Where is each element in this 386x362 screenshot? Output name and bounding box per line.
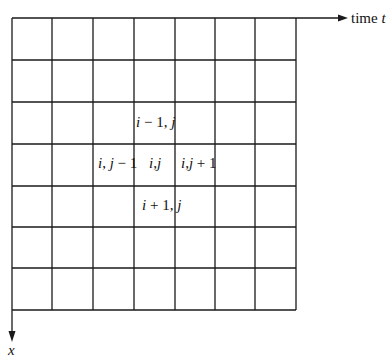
label-i-plus-1-j: i + 1, j xyxy=(142,198,181,213)
time-axis-label: time t xyxy=(351,11,386,26)
label-i-j-plus-1: i,j + 1 xyxy=(181,156,217,171)
x-axis-arrowhead-icon xyxy=(9,331,16,342)
label-i-j: i,j xyxy=(149,156,161,171)
label-i-j-minus-1: i, j − 1 xyxy=(98,156,137,171)
time-axis-arrowhead-icon xyxy=(338,15,348,22)
x-axis-label: x xyxy=(8,343,15,358)
label-i-minus-1-j: i − 1, j xyxy=(136,115,175,130)
